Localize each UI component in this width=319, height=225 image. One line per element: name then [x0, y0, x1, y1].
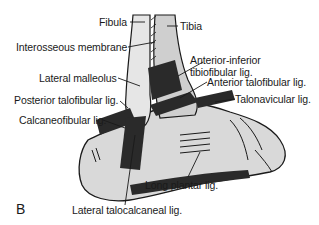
label-lateral-talocalcaneal: Lateral talocalcaneal lig. [72, 204, 182, 216]
label-fibula: Fibula [99, 16, 127, 28]
panel-letter: B [16, 201, 25, 217]
label-long-plantar: Long plantar lig. [145, 179, 218, 191]
label-talonavicular: Talonavicular lig. [235, 93, 311, 105]
label-posterior-talofibular: Posterior talofibular lig. [14, 94, 118, 106]
ankle-lateral-ligaments-drawing [0, 0, 319, 225]
label-lateral-malleolus: Lateral malleolus [39, 72, 117, 84]
label-tibia: Tibia [180, 20, 202, 32]
label-anterior-talofibular: Anterior talofibular lig. [207, 76, 306, 88]
label-calcaneofibular: Calcaneofibular lig. [19, 114, 106, 126]
label-interosseous-membrane: Interosseous membrane [16, 41, 127, 53]
talonavicular-ligament [195, 90, 235, 108]
label-anterior-inferior-tibiofibular-1: Anterior-inferior [190, 54, 261, 66]
